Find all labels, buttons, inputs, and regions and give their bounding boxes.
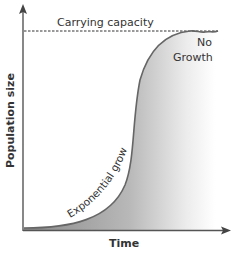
no-growth-label-line1: No <box>197 36 212 49</box>
exponential-growth-label: Exponential growth <box>0 0 129 220</box>
y-axis-label: Population size <box>4 73 17 168</box>
x-axis-label: Time <box>109 237 139 250</box>
no-growth-label-line2: Growth <box>173 51 213 64</box>
logistic-growth-diagram: Carrying capacity No Growth Exponential … <box>0 0 236 255</box>
carrying-capacity-label: Carrying capacity <box>57 16 154 29</box>
